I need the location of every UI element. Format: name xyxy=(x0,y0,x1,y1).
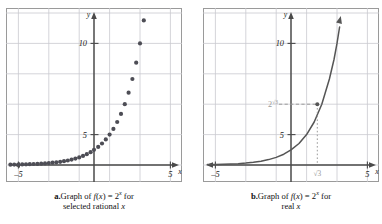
caption-a-line2-pre: selected rational xyxy=(63,201,121,211)
plot-a-grid-layer: –5 5 5 10 x y xyxy=(6,8,182,182)
caption-a: a.Graph of f(x) = 2x for selected ration… xyxy=(2,188,186,212)
annotation-point-b xyxy=(315,102,319,106)
caption-a-text1: Graph of xyxy=(61,191,94,201)
plot-a-svg: –5 5 5 10 x y xyxy=(6,8,182,182)
panel-a: –5 5 5 10 x y xyxy=(6,0,182,224)
caption-a-text2: for xyxy=(122,191,134,201)
y-axis-b xyxy=(288,12,296,182)
plot-a: –5 5 5 10 x y xyxy=(6,8,182,182)
y-tick-label-5-b: 5 xyxy=(280,131,284,140)
caption-b-line1: b.Graph of f(x) = 2x for xyxy=(199,188,382,201)
caption-b-label: b. xyxy=(251,191,258,201)
x-axis-name-b: x xyxy=(374,167,379,176)
y-tick-label-5-a: 5 xyxy=(83,131,87,140)
caption-b-line2-var: x xyxy=(297,201,301,211)
panel-b: –5 5 5 10 x y 2√3 √3 xyxy=(203,0,379,224)
exponential-curve-b xyxy=(207,27,339,165)
caption-b-text1: Graph of xyxy=(258,191,291,201)
x-tick-label-5-b: 5 xyxy=(365,170,369,179)
plot-b-grid-layer: –5 5 5 10 x y 2√3 √3 xyxy=(203,8,379,182)
caption-b: b.Graph of f(x) = 2x for real x xyxy=(199,188,382,212)
caption-a-line2-var: x xyxy=(121,201,125,211)
caption-a-line2: selected rational x xyxy=(2,201,186,211)
data-points-a xyxy=(8,8,148,167)
y-axis-a xyxy=(91,12,99,182)
y-axis-name-a: y xyxy=(86,10,91,19)
y-axis-name-b: y xyxy=(283,10,288,19)
caption-b-line2: real x xyxy=(199,201,382,211)
caption-a-line1: a.Graph of f(x) = 2x for xyxy=(2,188,186,201)
x-axis-name-a: x xyxy=(177,167,182,176)
caption-b-text2: for xyxy=(319,191,331,201)
y-tick-label-10-a: 10 xyxy=(79,39,88,48)
x-tick-label-neg5-a: –5 xyxy=(13,170,22,179)
caption-b-paren-close: ) = 2 xyxy=(300,191,316,201)
caption-b-line2-pre: real xyxy=(282,201,297,211)
annotation-x-label-b: √3 xyxy=(313,169,321,178)
caption-a-paren-close: ) = 2 xyxy=(103,191,119,201)
annotation-y-label-b: 2√3 xyxy=(268,99,278,109)
plot-b-svg: –5 5 5 10 x y 2√3 √3 xyxy=(203,8,379,182)
x-tick-label-5-a: 5 xyxy=(168,170,172,179)
y-tick-label-10-b: 10 xyxy=(276,39,285,48)
plot-b: –5 5 5 10 x y 2√3 √3 xyxy=(203,8,379,182)
figure-two-exponential-graphs: –5 5 5 10 x y xyxy=(0,0,382,224)
annotation-y-label-exp: √3 xyxy=(272,99,278,105)
x-tick-label-neg5-b: –5 xyxy=(210,170,219,179)
